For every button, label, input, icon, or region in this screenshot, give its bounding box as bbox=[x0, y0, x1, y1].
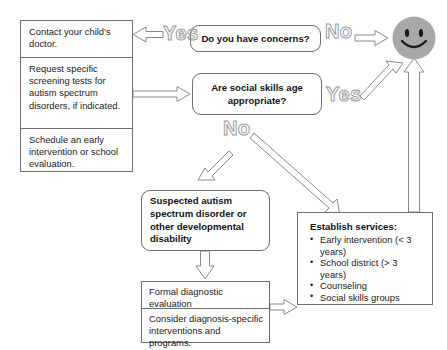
arrow-no-to-smiley bbox=[355, 31, 388, 46]
arrow-yes-to-smiley bbox=[360, 61, 403, 100]
edge-label-yes-concerns: Yes bbox=[163, 23, 198, 43]
arrow-services-to-smiley bbox=[404, 58, 424, 212]
smiley-circle bbox=[393, 17, 436, 60]
arrow-suspected-to-formal bbox=[196, 251, 214, 279]
node-formal-diagnostic-evaluation: Formal diagnostic evaluation bbox=[142, 282, 269, 308]
edge-label-no-concerns: No bbox=[325, 21, 352, 41]
edge-label-yes-social-skills: Yes bbox=[326, 84, 361, 104]
smiley-right-eye bbox=[419, 29, 423, 37]
service-item: Social skills groups bbox=[310, 292, 426, 304]
decision-do-you-have-concerns: Do you have concerns? bbox=[190, 25, 321, 52]
arrow-no-to-suspected bbox=[198, 151, 233, 180]
establish-services-list: Early intervention (< 3 years) School di… bbox=[310, 234, 426, 304]
establish-services-title: Establish services: bbox=[310, 221, 426, 233]
smiley-face-icon bbox=[392, 16, 436, 60]
service-item: School district (> 3 years) bbox=[310, 257, 426, 280]
action-step-contact-doctor: Contact your child’s doctor. bbox=[21, 21, 132, 57]
node-consider-diagnosis-interventions: Consider diagnosis-specific intervention… bbox=[142, 308, 269, 344]
arrow-formal-to-services bbox=[270, 300, 297, 315]
formal-diagnostic-stack: Formal diagnostic evaluation Consider di… bbox=[141, 281, 270, 343]
action-step-screening-tests: Request specific screening tests for aut… bbox=[21, 57, 132, 128]
service-item: Counseling bbox=[310, 280, 426, 292]
action-step-early-intervention: Schedule an early intervention or school… bbox=[21, 128, 132, 173]
edge-label-no-social-skills: No bbox=[223, 118, 250, 138]
service-item: Early intervention (< 3 years) bbox=[310, 234, 426, 257]
node-suspected-autism: Suspected autism spectrum disorder or ot… bbox=[141, 190, 270, 251]
arrow-steps-to-social bbox=[133, 87, 190, 102]
smiley-left-eye bbox=[405, 29, 409, 37]
decision-are-social-skills-age-appropriate: Are social skills age appropriate? bbox=[192, 73, 322, 115]
action-steps-stack: Contact your child’s doctor. Request spe… bbox=[20, 20, 133, 172]
flowchart-canvas: Contact your child’s doctor. Request spe… bbox=[0, 0, 447, 350]
arrow-yes-to-doctor bbox=[133, 27, 163, 42]
node-establish-services: Establish services: Early intervention (… bbox=[297, 212, 433, 305]
